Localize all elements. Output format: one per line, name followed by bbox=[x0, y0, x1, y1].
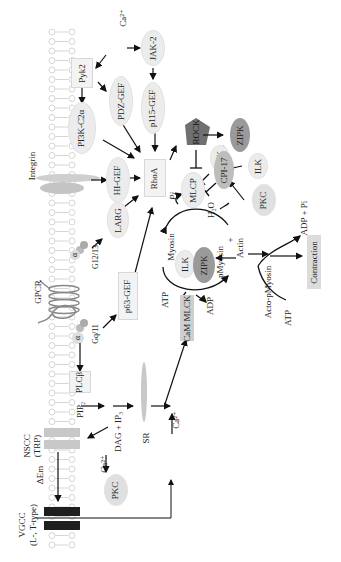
pdz-gef-node: PDZ-GEF bbox=[109, 76, 133, 126]
actin-label: Actin bbox=[236, 238, 245, 258]
trp-label: (TRP) bbox=[33, 435, 42, 458]
rock-label: ROCK bbox=[192, 119, 201, 144]
pyk2-node: Pyk2 bbox=[71, 58, 93, 88]
cam-mlck-node: CaM MLCK bbox=[180, 295, 194, 341]
ilk-node-c: ILK bbox=[175, 250, 195, 278]
delta-em-label: ΔEm bbox=[36, 466, 45, 484]
acto-pmyosin-label: Acto-pMyosin bbox=[264, 266, 273, 319]
cell-membrane bbox=[49, 29, 75, 548]
g1213-label: G12/13 bbox=[92, 245, 100, 269]
ca-top-label: Ca²⁺ bbox=[119, 9, 128, 26]
signaling-pathway-diagram: Ca²⁺ Pyk2 JAK-2 PDZ-GEF p115-GEF PI3K-C2… bbox=[0, 0, 341, 562]
sr-label: SR bbox=[142, 432, 151, 443]
integrin-label: Integrin bbox=[28, 152, 37, 181]
ilk-node-b: ILK bbox=[248, 153, 268, 179]
nscc-label: NSCC bbox=[23, 434, 32, 458]
gq11-label: Gq/11 bbox=[92, 324, 100, 344]
sarcoplasmic-reticulum bbox=[141, 362, 147, 422]
vgcc-types-label: (L-, T-type) bbox=[29, 504, 38, 546]
pmyosin-label: pMyosin bbox=[216, 246, 225, 278]
adp-pi-label: ADP + Pi bbox=[300, 201, 309, 236]
ca-mid-label: Ca²⁺ bbox=[172, 411, 181, 428]
p63-gef-node: p63-GEF bbox=[118, 272, 138, 320]
pkc-low-node: PKC bbox=[104, 474, 128, 506]
zipk-top-node: ZIPK bbox=[230, 118, 250, 152]
hi-gef-node: HI-GEF bbox=[106, 157, 130, 203]
cpi17-node: CPI-17 bbox=[214, 151, 234, 189]
atp-right-label: ATP bbox=[284, 310, 293, 326]
diagram-graphics bbox=[0, 0, 341, 562]
plus-label: + bbox=[226, 237, 235, 242]
h2o-label: H₂O bbox=[207, 202, 216, 218]
gpcr-label: GPCR bbox=[34, 280, 43, 304]
rhoa-node: RhoA bbox=[144, 159, 166, 197]
adp-label: ADP bbox=[206, 297, 215, 315]
larg-node: LARG bbox=[107, 202, 129, 238]
ca-low-label: Ca²⁺ bbox=[100, 455, 109, 472]
pip2-label: PIP₂ bbox=[76, 402, 85, 418]
pkc-right-node: PKC bbox=[252, 184, 276, 216]
jak2-node: JAK-2 bbox=[141, 30, 165, 66]
integrin-receptor bbox=[36, 174, 100, 194]
contraction-node: Contraction bbox=[307, 235, 321, 289]
p115-gef-node: p115-GEF bbox=[141, 82, 165, 134]
pi3k-c2a-node: PI3K-C2α bbox=[68, 102, 96, 154]
atp-left-label: ATP bbox=[161, 292, 170, 308]
dag-ip3-label: DAG + IP₃ bbox=[114, 412, 123, 452]
alpha-1213-label: α bbox=[71, 253, 79, 257]
pi-label: Pi bbox=[169, 192, 178, 200]
vgcc-label: VGCC bbox=[18, 512, 27, 537]
myosin-cycle bbox=[163, 194, 300, 303]
alpha-gq-label: α bbox=[74, 336, 82, 340]
g-protein-gq11 bbox=[72, 319, 88, 344]
plcb-node: PLCβ bbox=[69, 371, 91, 393]
zipk-mid-node: ZIPK bbox=[193, 247, 215, 283]
mlcp-node: MLCP bbox=[181, 172, 205, 208]
myosin-label: Myosin bbox=[167, 233, 176, 261]
